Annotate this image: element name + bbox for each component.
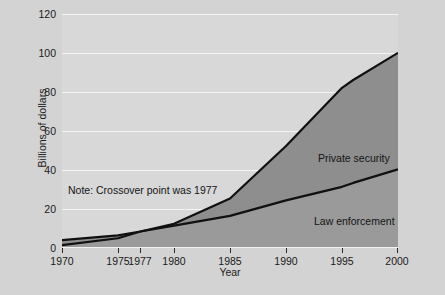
- x-axis-tick-mark: [342, 248, 343, 253]
- y-axis-tick-labels: 0 20 40 60 80 100 120 Billions of dollar…: [14, 14, 56, 248]
- y-axis-tick-label: 20: [44, 203, 56, 215]
- law-enforcement-label: Law enforcement: [314, 215, 395, 227]
- x-axis-tick-mark: [140, 248, 141, 253]
- x-axis-tick-mark: [62, 248, 63, 253]
- series-plot: [62, 14, 398, 248]
- x-axis-tick-mark: [286, 248, 287, 253]
- x-axis-tick-mark: [118, 248, 119, 253]
- private-security-label: Private security: [318, 152, 390, 164]
- x-axis-tick-mark: [174, 248, 175, 253]
- y-axis-title: Billions of dollars: [36, 53, 48, 203]
- x-axis-tick-mark: [230, 248, 231, 253]
- y-axis-tick-label: 120: [38, 8, 56, 20]
- x-axis-tick-mark: [397, 248, 398, 253]
- crossover-note: Note: Crossover point was 1977: [68, 184, 217, 196]
- plot-area: Note: Crossover point was 1977 Private s…: [62, 14, 398, 248]
- x-axis-title: Year: [62, 266, 398, 278]
- chart-figure: 0 20 40 60 80 100 120 Billions of dollar…: [0, 0, 445, 295]
- y-axis-tick-label: 0: [50, 242, 56, 254]
- x-axis-tick-labels: 1970 1975 1977 1980 1985 1990 1995 2000: [62, 248, 398, 268]
